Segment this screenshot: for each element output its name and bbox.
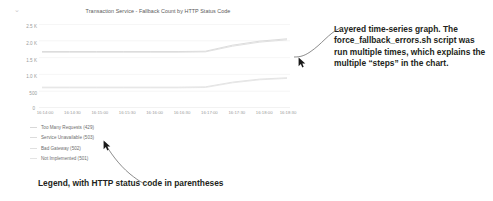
legend-item-label: Not Implemented (501) [41,156,88,161]
legend-item-429[interactable]: Too Many Requests (429) [30,122,170,133]
series-line [42,40,287,52]
y-tick-label: 2.5 K [11,24,37,29]
mouse-cursor-icon [103,140,112,151]
x-tick-label: 16:18:30 [280,110,297,115]
legend-swatch-icon [30,127,37,128]
annotation-bottom-text: Legend, with HTTP status code in parenth… [38,178,288,189]
x-tick-label: 16:14:30 [64,110,81,115]
legend-item-502[interactable]: Bad Gateway (502) [30,143,170,154]
x-tick-label: 16:15:00 [91,110,108,115]
y-tick-label: 1.0 K [11,74,37,79]
chart-title: Transaction Service - Fallback Count by … [8,8,308,14]
legend-item-label: Too Many Requests (429) [41,125,94,130]
x-tick-label: 16:17:30 [228,110,245,115]
x-tick-label: 16:16:30 [174,110,191,115]
y-tick-label: 500 [11,91,37,96]
legend-item-501[interactable]: Not Implemented (501) [30,154,170,165]
series-line [42,78,287,87]
gridlines [39,25,290,108]
chart-panel: ⌄ Transaction Service - Fallback Count b… [8,2,308,170]
plot-area[interactable] [39,24,290,108]
y-tick-label: 1.5 K [11,58,37,63]
y-axis: 2.5 K 2.0 K 1.5 K 1.0 K 500 0 [8,24,37,114]
legend-item-label: Service Unavailable (503) [41,135,94,140]
chart-legend: Too Many Requests (429) Service Unavaila… [30,122,170,164]
legend-swatch-icon [30,137,37,138]
series-lines [39,24,290,108]
legend-item-label: Bad Gateway (502) [41,146,81,151]
x-tick-label: 16:15:30 [119,110,136,115]
y-tick-label: 0 [9,106,35,111]
legend-item-503[interactable]: Service Unavailable (503) [30,133,170,144]
legend-swatch-icon [30,148,37,149]
x-tick-label: 16:16:00 [146,110,163,115]
mouse-cursor-icon [298,57,307,68]
annotation-right-text: Layered time-series graph. The force_fal… [334,24,486,69]
series-paths [42,39,287,88]
legend-swatch-icon [30,158,37,159]
y-tick-label: 2.0 K [11,41,37,46]
x-axis: 16:14:00 16:14:30 16:15:00 16:15:30 16:1… [39,110,290,118]
x-tick-label: 16:18:00 [256,110,273,115]
x-tick-label: 16:17:00 [201,110,218,115]
x-tick-label: 16:14:00 [37,110,54,115]
